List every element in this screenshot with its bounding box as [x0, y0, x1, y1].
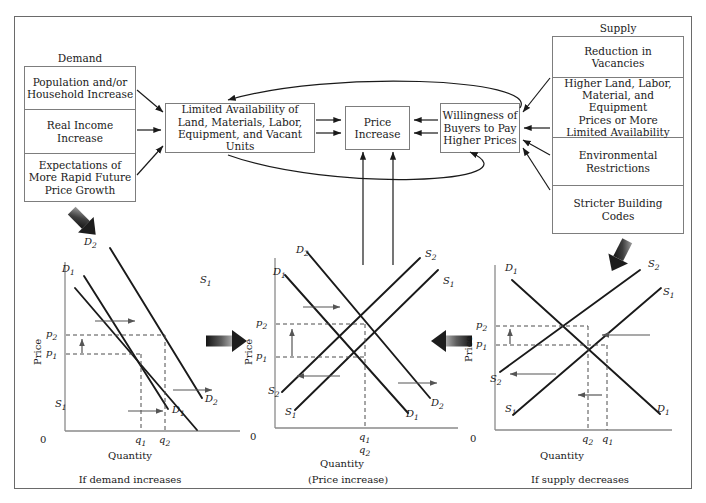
panel1-curve-D1	[84, 276, 168, 409]
panel2-curve-S2	[282, 258, 420, 392]
arrow-expectations-to-limited	[137, 146, 163, 175]
panel3-ylabel: Price	[463, 336, 474, 362]
arrow-codes-to-willingness	[523, 148, 550, 190]
panel3-label-S1-bottom: S1	[505, 403, 517, 417]
arrow-environmental-to-willingness	[523, 140, 550, 155]
panel1-tick-p2: p2	[46, 328, 57, 342]
panel3-caption: If supply decreases	[500, 474, 660, 485]
panel1-tick-q2: q2	[159, 434, 170, 448]
panel2-label-S2-bottom: S2	[268, 385, 280, 399]
diagram-graphics-layer	[0, 0, 706, 503]
panel2-tick-p2: p2	[256, 317, 267, 331]
panel2-curve-D1	[285, 275, 408, 413]
panel2-label-D1-bottom: D1	[406, 408, 419, 422]
panel3-label-S2-bottom: S2	[490, 373, 502, 387]
panel3-curve-S2	[500, 270, 640, 372]
block-arrow-supply-down	[602, 236, 637, 276]
panel1-label-S1-bottom: S1	[55, 398, 67, 412]
panel1-caption: If demand increases	[50, 474, 210, 485]
panel2-label-S1-bottom: S1	[285, 406, 297, 420]
panel1-tick-q1: q1	[135, 434, 146, 448]
panel2-caption: (Price increase)	[268, 474, 428, 485]
panel2-label-D2: D2	[296, 244, 309, 258]
panel2-tick-q1: q1	[359, 431, 370, 445]
panel1-ylabel: Price	[32, 339, 43, 365]
panel1-xlabel: Quantity	[108, 450, 152, 461]
panel1-label-D1-bottom: D1	[172, 404, 185, 418]
panel1-label-S1-top: S1	[200, 274, 212, 288]
panel3-label-S1-top: S1	[663, 286, 675, 300]
panel3-label-D1-top: D1	[505, 262, 518, 276]
panel3-origin: 0	[470, 433, 476, 444]
panel3-xlabel: Quantity	[540, 450, 584, 461]
arrow-population-to-limited	[137, 90, 163, 112]
panel2-tick-q2: q2	[359, 444, 370, 458]
panel1-label-D2: D2	[84, 236, 97, 250]
panel2-tick-p1: p1	[256, 350, 267, 364]
panel1-curve-D2	[110, 248, 202, 398]
panel2-xlabel: Quantity	[320, 458, 364, 469]
panel2-label-D2-bottom: D2	[431, 397, 444, 411]
panel1-label-D2-bottom: D2	[205, 393, 218, 407]
panel3-tick-p2: p2	[476, 319, 487, 333]
feedback-loop-top	[228, 81, 521, 108]
panel3-label-S2-top: S2	[648, 258, 660, 272]
panel2-origin: 0	[250, 431, 256, 442]
arrow-vacancies-to-willingness	[523, 78, 550, 112]
panel2-ylabel: Price	[243, 339, 254, 365]
figure-root: Demand Supply Population and/or Househol…	[0, 0, 706, 503]
panel3-tick-q1: q1	[602, 433, 613, 447]
panel2-label-D1-top: D1	[273, 266, 286, 280]
chart-panel-right	[495, 265, 672, 430]
panel3-tick-p1: p1	[476, 338, 487, 352]
panel2-label-S2-top: S2	[425, 248, 437, 262]
panel1-tick-p1: p1	[46, 347, 57, 361]
panel3-label-D1-bottom: D1	[657, 403, 670, 417]
panel2-curve-S1	[295, 270, 438, 410]
feedback-loop-bottom	[228, 152, 484, 180]
panel3-tick-q2: q2	[582, 433, 593, 447]
panel2-label-S1-top: S1	[443, 275, 455, 289]
panel1-label-D1-top: D1	[62, 263, 75, 277]
panel1-origin: 0	[40, 434, 46, 445]
block-arrow-panel1-to-panel2	[206, 330, 247, 352]
